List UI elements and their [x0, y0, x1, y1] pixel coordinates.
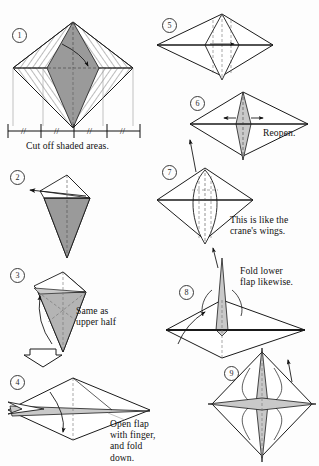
step-1-figure [13, 22, 133, 128]
step-number-1: 1 [12, 28, 27, 43]
step-number-6: 6 [190, 96, 205, 111]
step-number-5: 5 [162, 18, 177, 33]
caption-step-3: Same as upper half [76, 305, 116, 327]
step-number-2: 2 [10, 170, 25, 185]
step-number-9: 9 [224, 366, 239, 381]
svg-text://: // [21, 126, 27, 136]
svg-text://: // [87, 126, 93, 136]
caption-step-4: Open flap with finger, and fold down. [110, 418, 156, 463]
caption-step-8: Fold lower flap likewise. [240, 265, 293, 287]
step-number-7: 7 [162, 165, 177, 180]
step-number-8: 8 [179, 285, 194, 300]
step-number-3: 3 [10, 268, 25, 283]
caption-step-1: Cut off shaded areas. [26, 140, 109, 151]
svg-text://: // [120, 126, 126, 136]
step8-top-spike [216, 258, 228, 336]
caption-step-6: Reopen. [263, 127, 295, 138]
step-number-4: 4 [10, 375, 25, 390]
arrow-step7-to-step8 [213, 248, 218, 268]
step-9-figure [208, 348, 316, 462]
arrow-step8-to-step9 [288, 360, 292, 382]
arrow-step6-to-step7 [190, 140, 196, 172]
equal-spacing-ruler: // // // // [8, 124, 140, 138]
diagram-sheet: // // // // [0, 0, 319, 466]
svg-text://: // [54, 126, 60, 136]
step-2-figure [30, 175, 90, 258]
arrow-step3-to-step4 [24, 349, 62, 367]
caption-step-7: This is like the crane's wings. [230, 214, 288, 236]
